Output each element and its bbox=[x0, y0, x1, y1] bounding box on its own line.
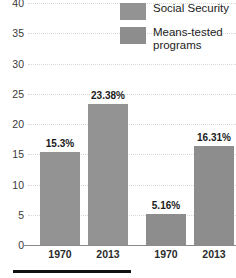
bar-chart: 15.3%23.38%5.16%16.31% 0510152025303540 … bbox=[0, 0, 236, 278]
x-tick-label-1970-2: 1970 bbox=[140, 248, 192, 260]
y-tick-label: 30 bbox=[0, 59, 24, 69]
legend-label-social-security: Social Security bbox=[153, 2, 229, 15]
y-tick-label: 5 bbox=[0, 210, 24, 220]
legend-swatch-means-tested bbox=[120, 27, 146, 44]
x-axis-line bbox=[24, 245, 236, 246]
y-tick-label: 10 bbox=[0, 180, 24, 190]
x-tick-label-2013-1: 2013 bbox=[82, 248, 134, 260]
bar-value-label: 23.38% bbox=[80, 90, 136, 101]
legend-item-means-tested[interactable]: Means-tested programs bbox=[120, 26, 236, 52]
gridline bbox=[28, 64, 236, 65]
bar-social-security-2013[interactable] bbox=[88, 104, 128, 245]
bar-value-label: 16.31% bbox=[186, 132, 236, 143]
y-tick-label: 25 bbox=[0, 89, 24, 99]
x-tick-label-1970-0: 1970 bbox=[34, 248, 86, 260]
gridline bbox=[28, 124, 236, 125]
y-tick-label: 20 bbox=[0, 119, 24, 129]
footer-rule bbox=[13, 270, 131, 273]
bar-social-security-1970[interactable] bbox=[40, 152, 80, 245]
y-tick-label: 15 bbox=[0, 149, 24, 159]
chart-legend: Social Security Means-tested programs bbox=[120, 2, 236, 58]
bar-value-label: 5.16% bbox=[138, 200, 194, 211]
legend-item-social-security[interactable]: Social Security bbox=[120, 2, 236, 20]
y-tick-label: 40 bbox=[0, 0, 24, 8]
y-tick-label: 0 bbox=[0, 240, 24, 250]
bar-means-tested-programs-1970[interactable] bbox=[146, 214, 186, 245]
x-tick-label-2013-3: 2013 bbox=[188, 248, 236, 260]
y-tick-label: 35 bbox=[0, 28, 24, 38]
bar-value-label: 15.3% bbox=[32, 138, 88, 149]
legend-swatch-social-security bbox=[120, 3, 146, 20]
legend-label-means-tested: Means-tested programs bbox=[153, 26, 236, 52]
bar-means-tested-programs-2013[interactable] bbox=[194, 146, 234, 245]
